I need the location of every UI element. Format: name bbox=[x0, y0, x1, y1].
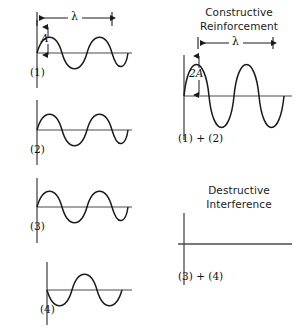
sum12-label: (1) + (2) bbox=[178, 132, 223, 144]
wave4-label: (4) bbox=[40, 303, 55, 315]
panel-wave1 bbox=[37, 12, 132, 88]
panel-wave2 bbox=[37, 100, 132, 165]
wave2-label: (2) bbox=[30, 143, 45, 155]
wave3-label: (3) bbox=[30, 220, 45, 232]
wave1-amplitude-symbol: A bbox=[41, 32, 49, 44]
wave1-lambda-symbol: λ bbox=[71, 10, 78, 23]
sum12-amplitude-symbol: 2A bbox=[189, 67, 203, 79]
wave-interference-figure: λ A (1) (2) (3) (4) Constructive Reinfor… bbox=[0, 0, 303, 329]
sum12-lambda-symbol: λ bbox=[232, 35, 239, 48]
figure-canvas bbox=[0, 0, 303, 329]
constructive-heading: Constructive Reinforcement bbox=[183, 6, 295, 33]
panel-sum12 bbox=[184, 37, 292, 140]
destructive-heading: Destructive Interference bbox=[183, 184, 295, 211]
panel-wave4 bbox=[47, 262, 132, 325]
sum34-label: (3) + (4) bbox=[178, 270, 223, 282]
wave1-label: (1) bbox=[30, 66, 45, 78]
panel-wave3 bbox=[37, 178, 132, 243]
